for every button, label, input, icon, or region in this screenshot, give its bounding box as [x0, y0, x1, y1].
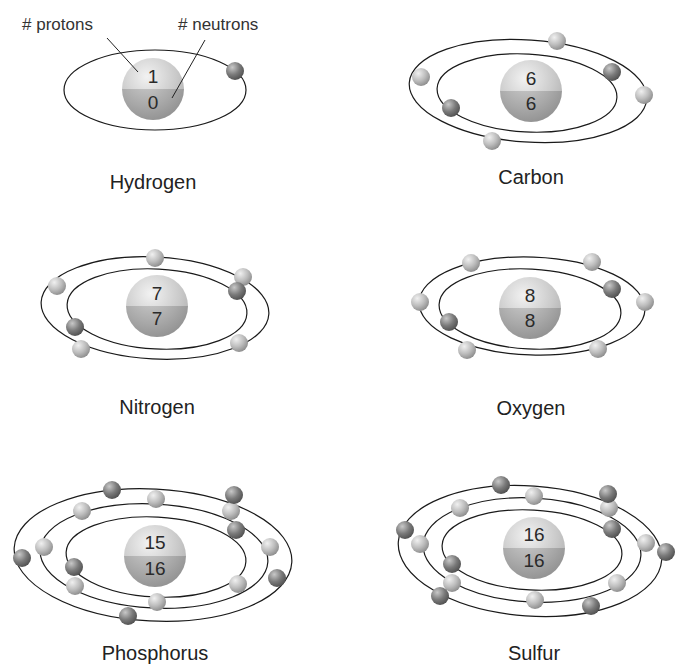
electron [66, 577, 84, 595]
electron [462, 254, 480, 272]
neutron-count: 6 [526, 93, 537, 114]
atom-name: Phosphorus [102, 642, 209, 664]
electron [637, 534, 655, 552]
atom-name: Nitrogen [119, 396, 195, 418]
proton-count: 6 [526, 68, 537, 89]
neutron-count: 16 [523, 550, 544, 571]
protons-callout-label: # protons [22, 15, 93, 34]
electron [525, 487, 543, 505]
electron [583, 253, 601, 271]
electron [608, 574, 626, 592]
electron [227, 521, 245, 539]
proton-count: 7 [152, 283, 163, 304]
electron [268, 569, 286, 587]
electron [458, 341, 476, 359]
electron [103, 481, 121, 499]
electron [261, 538, 279, 556]
electron [66, 318, 84, 336]
neutrons-callout-label: # neutrons [178, 15, 258, 34]
electron [228, 282, 246, 300]
atom-name: Carbon [498, 166, 564, 188]
electron [657, 543, 675, 561]
atom-name: Sulfur [508, 642, 561, 664]
electron [451, 499, 469, 517]
electron [13, 549, 31, 567]
electron [548, 32, 566, 50]
electron [225, 486, 243, 504]
neutron-count: 0 [148, 92, 159, 113]
neutrons-callout-line [172, 40, 205, 98]
atom-name: Oxygen [497, 397, 566, 419]
electron [119, 607, 137, 625]
proton-count: 1 [148, 66, 159, 87]
electron [229, 575, 247, 593]
electron [431, 587, 449, 605]
proton-count: 8 [525, 285, 536, 306]
electron [603, 520, 621, 538]
electron [603, 280, 621, 298]
electron [526, 591, 544, 609]
atom-sulfur: 16 16 Sulfur [394, 476, 675, 664]
atom-carbon: 6 6 Carbon [406, 32, 653, 188]
electron [483, 132, 501, 150]
electron [72, 340, 90, 358]
electron [635, 86, 653, 104]
electron [603, 63, 621, 81]
electron [492, 476, 510, 494]
electron [73, 502, 91, 520]
electron [411, 293, 429, 311]
atom-name: Hydrogen [110, 171, 197, 193]
electron [440, 313, 458, 331]
neutron-count: 8 [525, 310, 536, 331]
neutron-count: 16 [144, 558, 165, 579]
atom-oxygen: 8 8 Oxygen [411, 253, 654, 419]
atomic-structure-diagram: 1 0 # protons # neutrons Hydrogen 6 6 Ca… [0, 0, 676, 667]
atom-nitrogen: 7 7 Nitrogen [38, 249, 271, 418]
electron [230, 334, 248, 352]
electron [148, 593, 166, 611]
electron [147, 490, 165, 508]
electron [146, 249, 164, 267]
electron [599, 485, 617, 503]
electron [443, 555, 461, 573]
electron [442, 99, 460, 117]
neutron-count: 7 [152, 308, 163, 329]
electron [582, 597, 600, 615]
atom-hydrogen: 1 0 # protons # neutrons Hydrogen [22, 15, 258, 193]
electron [396, 521, 414, 539]
electron [412, 68, 430, 86]
electron [48, 277, 66, 295]
electron [222, 502, 240, 520]
electron [35, 538, 53, 556]
electron [589, 340, 607, 358]
electron [65, 558, 83, 576]
proton-count: 15 [144, 532, 165, 553]
proton-count: 16 [523, 524, 544, 545]
electron [411, 535, 429, 553]
electron [226, 62, 244, 80]
atom-phosphorus: 15 16 Phosphorus [11, 481, 296, 664]
electron [636, 293, 654, 311]
